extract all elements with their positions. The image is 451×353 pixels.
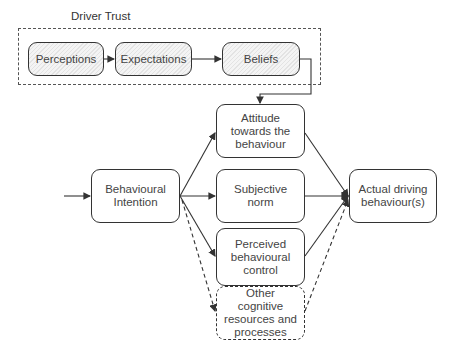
intention-node: Behavioural Intention <box>91 169 180 223</box>
perceptions-node: Perceptions <box>28 42 104 76</box>
perceived-control-node: Perceived behavioural control <box>216 228 305 286</box>
actual-behaviour-node: Actual driving behaviour(s) <box>349 169 437 223</box>
beliefs-node: Beliefs <box>222 42 300 76</box>
subjective-norm-node: Subjective norm <box>216 169 305 223</box>
expectations-node: Expectations <box>115 42 192 76</box>
attitude-node: Attitude towards the behaviour <box>216 104 305 158</box>
other-cognitive-node: Other cognitive resources and processes <box>216 286 305 340</box>
